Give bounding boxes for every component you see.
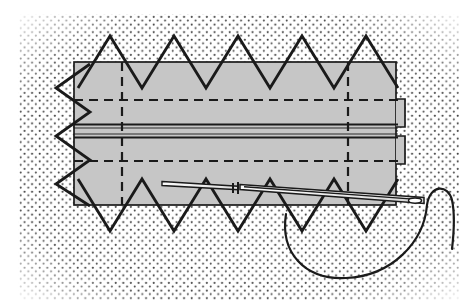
sewing-diagram (0, 0, 475, 308)
illustration-stage (0, 0, 475, 308)
needle-eye (409, 198, 422, 203)
right-fold-tab-lower (396, 136, 405, 164)
right-fold-tab-upper (396, 99, 405, 127)
